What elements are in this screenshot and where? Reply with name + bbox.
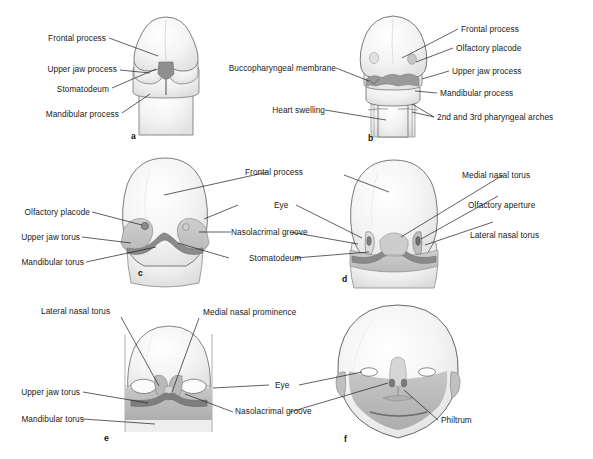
label-upper-jaw-process-a: Upper jaw process xyxy=(0,64,117,74)
label-buccopharyngeal-membrane-b: Buccopharyngeal membrane xyxy=(202,63,336,73)
label-nasolacrimal-groove-f: Nasolacrimal groove xyxy=(235,406,312,416)
panel-a-leaders xyxy=(109,38,158,113)
label-olfactory-placode-b: Olfactory placode xyxy=(456,43,521,53)
label-upper-jaw-torus-e: Upper jaw torus xyxy=(0,387,80,397)
panel-a-artwork xyxy=(133,17,199,135)
panel-b-artwork xyxy=(360,16,427,137)
panel-letter-d: d xyxy=(342,274,347,284)
label-stomatodeum-a: Stomatodeum xyxy=(0,84,109,94)
label-pharyngeal-arches-b: 2nd and 3rd pharyngeal arches xyxy=(437,112,553,122)
panel-d-artwork xyxy=(350,160,438,288)
label-mandibular-torus-e: Mandibular torus xyxy=(0,414,84,424)
panel-letter-a: a xyxy=(131,131,136,141)
label-frontal-process-a: Frontal process xyxy=(0,33,106,43)
label-medial-nasal-prominence-e: Medial nasal prominence xyxy=(203,307,296,317)
panel-letter-e: e xyxy=(104,433,109,443)
label-mandibular-process-a: Mandibular process xyxy=(0,109,119,119)
label-olfactory-placode-c: Olfactory placode xyxy=(0,207,90,217)
label-philtrum-f: Philtrum xyxy=(441,415,472,425)
label-frontal-process-cd: Frontal process xyxy=(245,167,303,177)
label-upper-jaw-torus-c: Upper jaw torus xyxy=(0,232,80,242)
label-upper-jaw-process-b: Upper jaw process xyxy=(452,66,522,76)
panel-d-leaders xyxy=(290,175,503,258)
label-eye-cd: Eye xyxy=(274,200,288,210)
label-mandibular-torus-c: Mandibular torus xyxy=(0,257,84,267)
label-frontal-process-b: Frontal process xyxy=(461,24,519,34)
panel-c-artwork xyxy=(121,158,209,287)
label-nasolacrimal-groove-cd: Nasolacrimal groove xyxy=(231,227,308,237)
label-eye-f: Eye xyxy=(275,380,289,390)
panel-letter-f: f xyxy=(344,434,347,444)
panel-c-leaders xyxy=(82,172,268,262)
panel-b-leaders xyxy=(325,29,458,120)
label-lateral-nasal-torus-e: Lateral nasal torus xyxy=(41,306,110,316)
panel-f-leaders xyxy=(290,372,438,420)
label-lateral-nasal-torus-d: Lateral nasal torus xyxy=(470,230,539,240)
label-olfactory-aperture-d: Olfactory aperture xyxy=(468,200,535,210)
label-mandibular-process-b: Mandibular process xyxy=(440,88,513,98)
label-heart-swelling-b: Heart swelling xyxy=(252,105,325,115)
figure-canvas: Frontal process Upper jaw process Stomat… xyxy=(0,0,593,459)
label-medial-nasal-torus-d: Medial nasal torus xyxy=(462,170,530,180)
panel-e-artwork xyxy=(125,326,212,432)
label-stomatodeum-cd: Stomatodeum xyxy=(249,253,301,263)
panel-letter-b: b xyxy=(368,133,373,143)
panel-letter-c: c xyxy=(138,268,143,278)
